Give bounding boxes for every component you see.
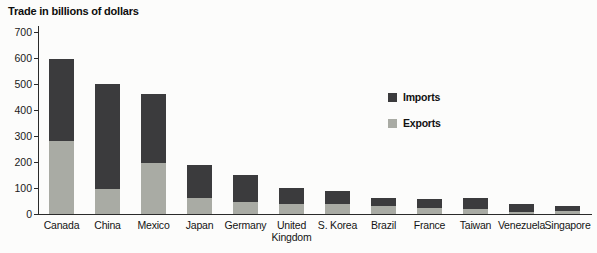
y-tick-mark [34, 84, 38, 85]
bar-segment-imports-canada [49, 59, 74, 141]
bar-segment-imports-germany [233, 175, 258, 202]
bar-segment-imports-brazil [371, 198, 396, 207]
y-tick-label: 100 [6, 183, 32, 193]
legend-swatch-imports [388, 93, 397, 102]
bar-segment-exports-s-korea [325, 204, 350, 214]
bar-segment-exports-taiwan [463, 209, 488, 214]
bar-segment-exports-venezuela [509, 212, 534, 214]
bar-segment-exports-france [417, 208, 442, 214]
y-tick-label: 500 [6, 79, 32, 89]
bar-segment-imports-united-kingdom [279, 188, 304, 204]
x-axis-line [38, 214, 592, 215]
y-tick-label: 600 [6, 53, 32, 63]
legend-label-exports: Exports [403, 118, 441, 129]
y-tick-mark [34, 136, 38, 137]
chart-legend: ImportsExports [388, 92, 441, 144]
y-tick-mark [34, 58, 38, 59]
trade-bar-chart: Trade in billions of dollars 01002003004… [0, 0, 597, 253]
bar-segment-imports-singapore [555, 206, 580, 211]
legend-swatch-exports [388, 119, 397, 128]
y-tick-mark [34, 32, 38, 33]
chart-title: Trade in billions of dollars [8, 5, 139, 17]
y-axis-line [38, 26, 39, 214]
bar-segment-exports-japan [187, 198, 212, 214]
y-tick-label: 400 [6, 105, 32, 115]
bar-segment-exports-united-kingdom [279, 204, 304, 214]
legend-item-exports: Exports [388, 118, 441, 144]
legend-label-imports: Imports [403, 92, 440, 103]
y-tick-label: 200 [6, 157, 32, 167]
bar-segment-imports-taiwan [463, 198, 488, 208]
bar-segment-imports-venezuela [509, 204, 534, 213]
bar-segment-exports-mexico [141, 163, 166, 214]
legend-item-imports: Imports [388, 92, 441, 118]
y-tick-label: 300 [6, 131, 32, 141]
y-tick-mark [34, 110, 38, 111]
bar-segment-imports-mexico [141, 94, 166, 163]
bar-segment-exports-singapore [555, 211, 580, 214]
y-tick-label: 700 [6, 27, 32, 37]
bar-segment-imports-s-korea [325, 191, 350, 204]
bar-segment-exports-china [95, 189, 120, 214]
bar-segment-exports-germany [233, 202, 258, 214]
bar-segment-exports-canada [49, 141, 74, 214]
y-tick-mark [34, 162, 38, 163]
bar-segment-imports-france [417, 199, 442, 208]
y-tick-mark [34, 188, 38, 189]
bar-segment-exports-brazil [371, 206, 396, 214]
x-axis-label-singapore: Singapore [538, 220, 597, 232]
bar-segment-imports-china [95, 84, 120, 189]
bar-segment-imports-japan [187, 165, 212, 199]
y-tick-label: 0 [6, 209, 32, 219]
y-tick-mark [34, 214, 38, 215]
